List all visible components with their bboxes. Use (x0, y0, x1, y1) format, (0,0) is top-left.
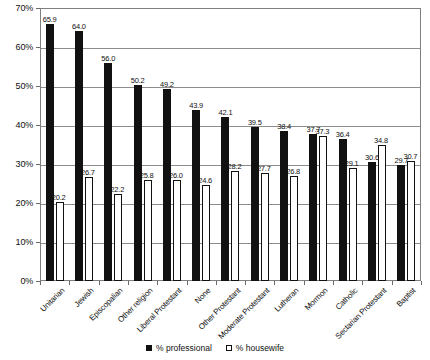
x-tick-mark (274, 281, 275, 285)
bar-professional: 56.0 (104, 63, 112, 281)
bar-housewife: 25.8 (144, 180, 152, 281)
bar-group: 56.022.2 (99, 8, 128, 281)
x-tick-mark (245, 281, 246, 285)
bar-professional: 38.4 (280, 131, 288, 281)
x-tick-mark (392, 281, 393, 285)
bar-group: 43.924.6 (187, 8, 216, 281)
x-axis-category-label: Moderate Protestant (216, 286, 271, 341)
legend-swatch-professional-icon (146, 345, 152, 351)
x-axis-category-label: Unitarian (38, 286, 66, 314)
bar-housewife: 26.7 (85, 177, 93, 281)
legend-item: % professional (146, 343, 212, 353)
bar-value-label: 42.1 (219, 108, 233, 117)
bar-group: 38.426.8 (274, 8, 303, 281)
x-axis-category-label: Catholic (333, 286, 359, 312)
bar-value-label: 65.9 (43, 15, 57, 24)
bars-layer: 65.920.264.026.756.022.250.225.849.226.0… (40, 8, 421, 281)
bar-housewife: 37.3 (319, 136, 327, 281)
bar-group: 64.026.7 (69, 8, 98, 281)
bar-value-label: 56.0 (101, 54, 115, 63)
legend-item: % housewife (226, 343, 284, 353)
bar-housewife: 28.2 (231, 171, 239, 281)
y-tick-label: 10% (16, 237, 33, 247)
bar-housewife: 26.8 (290, 176, 298, 281)
bar-value-label: 25.8 (140, 171, 154, 180)
x-axis-category-label: Mormon (304, 286, 330, 312)
bar-housewife: 30.7 (407, 161, 415, 281)
x-tick-mark (69, 281, 70, 285)
x-tick-mark (99, 281, 100, 285)
y-tick-label: 40% (16, 120, 33, 130)
x-tick-mark (304, 281, 305, 285)
bar-value-label: 28.2 (228, 162, 242, 171)
y-tick-label: 20% (16, 198, 33, 208)
bar-housewife: 27.7 (261, 173, 269, 281)
bar-group: 65.920.2 (40, 8, 69, 281)
legend-label: % housewife (236, 343, 284, 353)
x-tick-mark (187, 281, 188, 285)
bar-professional: 39.5 (251, 127, 259, 281)
y-tick-label: 60% (16, 42, 33, 52)
x-tick-mark (216, 281, 217, 285)
bar-value-label: 34.8 (374, 136, 388, 145)
bar-housewife: 26.0 (173, 180, 181, 281)
bar-group: 39.527.7 (245, 8, 274, 281)
bar-value-label: 20.2 (52, 193, 66, 202)
bar-group: 29.730.7 (392, 8, 421, 281)
x-tick-mark (128, 281, 129, 285)
bar-value-label: 64.0 (72, 22, 86, 31)
bar-professional: 49.2 (163, 89, 171, 281)
x-axis-category-label: Lutheran (273, 286, 301, 314)
bar-group: 30.634.8 (362, 8, 391, 281)
y-tick-label: 0% (20, 276, 33, 286)
bar-professional: 64.0 (75, 31, 83, 281)
x-tick-mark (157, 281, 158, 285)
y-tick-label: 50% (16, 81, 33, 91)
bar-value-label: 39.5 (248, 118, 262, 127)
bar-professional: 29.7 (397, 165, 405, 281)
chart-legend: % professional% housewife (0, 340, 430, 356)
bar-professional: 30.6 (368, 162, 376, 281)
bar-housewife: 22.2 (114, 194, 122, 281)
bar-value-label: 50.2 (131, 76, 145, 85)
legend-swatch-housewife-icon (226, 345, 232, 351)
x-axis-category-label: Sectarian Protestant (334, 286, 389, 341)
x-tick-mark (333, 281, 334, 285)
bar-chart: 0%10%20%30%40%50%60%70% 65.920.264.026.7… (0, 0, 430, 360)
bar-value-label: 36.4 (336, 130, 350, 139)
bar-group: 42.128.2 (216, 8, 245, 281)
x-tick-mark (362, 281, 363, 285)
legend-label: % professional (156, 343, 212, 353)
bar-group: 37.737.3 (304, 8, 333, 281)
bar-value-label: 38.4 (277, 122, 291, 131)
bar-professional: 65.9 (46, 24, 54, 281)
bar-professional: 50.2 (134, 85, 142, 281)
bar-value-label: 49.2 (160, 80, 174, 89)
x-axis-labels: UnitarianJewishEpiscopalianOther religio… (0, 286, 430, 341)
bar-value-label: 26.0 (169, 171, 183, 180)
bar-professional: 37.7 (309, 134, 317, 281)
x-axis-category-label: Jewish (73, 286, 96, 309)
bar-professional: 43.9 (192, 110, 200, 281)
bar-value-label: 27.7 (257, 164, 271, 173)
bar-value-label: 30.6 (365, 153, 379, 162)
x-tick-mark (40, 281, 41, 285)
bar-group: 49.226.0 (157, 8, 186, 281)
bar-housewife: 34.8 (378, 145, 386, 281)
bar-value-label: 26.7 (81, 168, 95, 177)
x-axis-category-label: None (193, 286, 212, 305)
y-axis: 0%10%20%30%40%50%60%70% (0, 0, 40, 290)
bar-housewife: 29.1 (349, 168, 357, 281)
bar-value-label: 26.8 (286, 167, 300, 176)
bar-value-label: 22.2 (110, 185, 124, 194)
bar-housewife: 20.2 (56, 202, 64, 281)
bar-value-label: 43.9 (189, 101, 203, 110)
bar-value-label: 30.7 (403, 152, 417, 161)
bar-value-label: 24.6 (198, 176, 212, 185)
bar-value-label: 37.3 (316, 127, 330, 136)
bar-value-label: 29.1 (345, 159, 359, 168)
x-axis-category-label: Baptist (395, 286, 418, 309)
bar-professional: 42.1 (221, 117, 229, 281)
bar-housewife: 24.6 (202, 185, 210, 281)
bar-group: 50.225.8 (128, 8, 157, 281)
